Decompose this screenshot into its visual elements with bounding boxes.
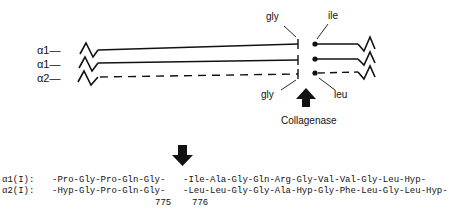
chain-label-alpha2: α2— (37, 72, 60, 84)
seq-left-alpha2: -Hyp-Gly-Pro-Gln-Gly- (52, 186, 165, 196)
seq-label-alpha1: α1(I): (2, 175, 34, 185)
right-zigzags (358, 37, 375, 79)
position-776: 776 (192, 198, 208, 208)
chain-label-alpha1-a: α1— (37, 44, 60, 56)
seq-left-alpha1: -Pro-Gly-Pro-Gln-Gly- (52, 175, 165, 185)
position-775: 775 (155, 198, 171, 208)
right-chain-lines (315, 44, 358, 73)
label-leu-bottom: leu (334, 89, 347, 100)
label-ile-top: ile (328, 10, 338, 21)
label-gly-bottom: gly (261, 89, 274, 100)
collagenase-arrow-icon (296, 88, 316, 107)
leader-lines (281, 24, 335, 90)
seq-label-alpha2: α2(I): (2, 186, 34, 196)
chain-label-alpha1-b: α1— (37, 58, 60, 70)
seq-right-alpha2: -Leu-Leu-Gly-Gly-Ala-Hyp-Gly-Phe-Leu-Gly… (183, 186, 448, 196)
left-zigzags (78, 43, 98, 85)
enzyme-label: Collagenase (281, 115, 337, 126)
seq-right-alpha1: -Ile-Ala-Gly-Gln-Arg-Gly-Val-Val-Gly-Leu… (183, 175, 426, 185)
label-gly-top: gly (266, 11, 279, 22)
cleavage-site-arrow-icon (172, 145, 193, 166)
left-chain-lines (98, 44, 298, 77)
